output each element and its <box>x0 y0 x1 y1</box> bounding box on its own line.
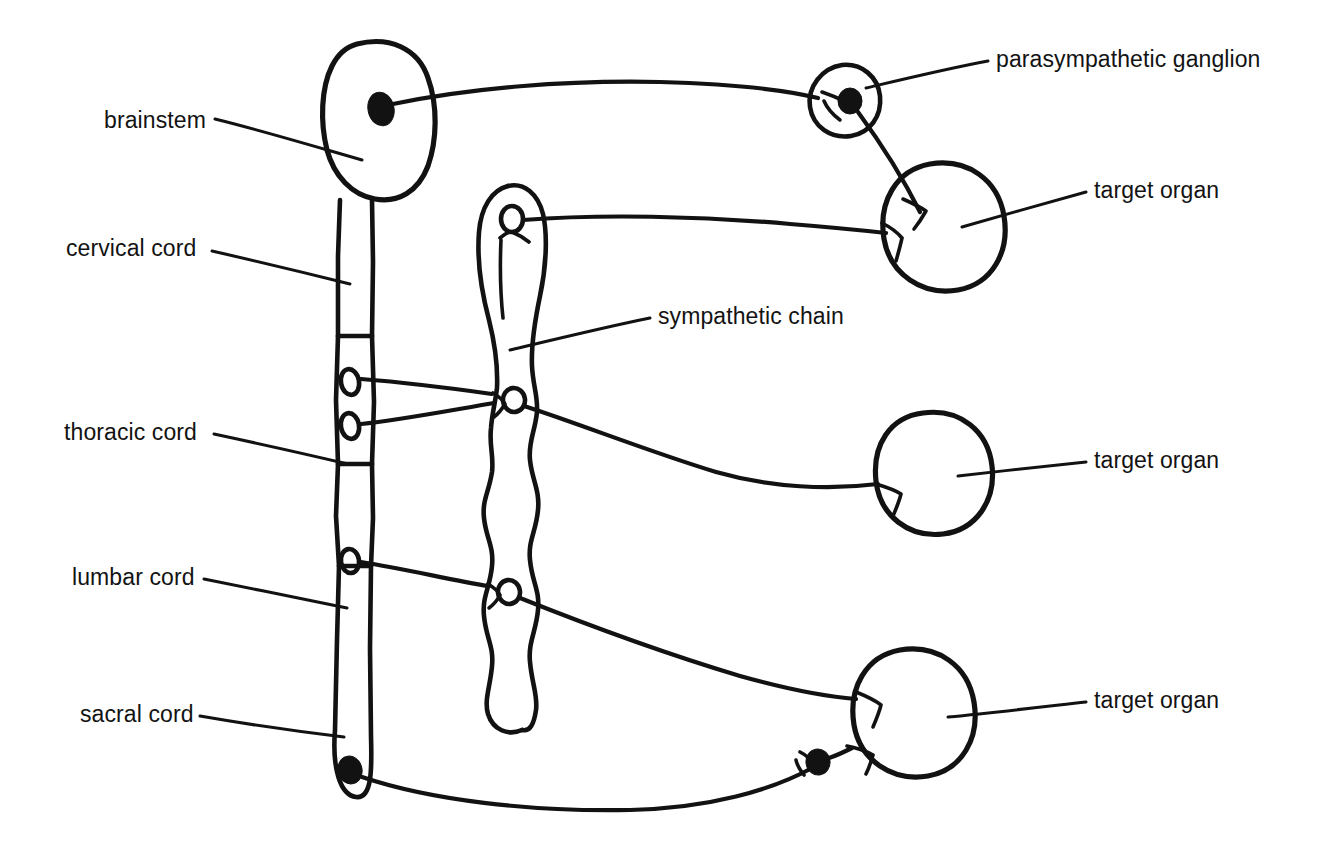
fiber-superior-cervical-ganglion-to-target-organ-top <box>523 217 886 233</box>
thoracic-root-lower <box>339 412 361 441</box>
lumbar-cord-right-wall <box>371 464 373 566</box>
fiber-chain-to-target-organ-middle <box>524 406 878 487</box>
fiber-terminal-ganglion-to-target-organ-bottom <box>829 748 852 758</box>
label-parasympathetic-ganglion: parasympathetic ganglion <box>996 46 1261 72</box>
leader-parasympathetic-ganglion <box>866 61 988 88</box>
cervical-cord-left-wall <box>338 200 340 336</box>
leader-sacral-cord <box>200 716 344 737</box>
label-thoracic-cord: thoracic cord <box>64 419 197 445</box>
ans-diagram-canvas: brainstem cervical cord thoracic cord lu… <box>0 0 1324 857</box>
lumbar-cord-left-wall <box>336 464 339 566</box>
label-target-organ-top: target organ <box>1094 177 1219 203</box>
thoracic-cord-left-wall <box>336 336 338 464</box>
label-target-organ-middle: target organ <box>1094 447 1219 473</box>
brainstem-nucleus <box>365 90 398 129</box>
label-cervical-cord: cervical cord <box>66 235 196 261</box>
sympathetic-chain-right-wall <box>508 185 546 730</box>
label-target-organ-bottom: target organ <box>1094 687 1219 713</box>
lumbar-root <box>339 548 360 574</box>
fiber-sacral-cord-to-terminal-ganglion <box>362 768 812 810</box>
leader-target-organ-bottom <box>948 702 1086 717</box>
leader-target-organ-middle <box>958 462 1086 476</box>
thoracic-cord-right-wall <box>372 336 374 464</box>
leader-cervical-cord <box>212 251 350 284</box>
leader-brainstem <box>215 119 362 160</box>
brainstem-group <box>323 42 436 200</box>
target-organ-bottom-terminal-upper <box>856 692 881 727</box>
leader-target-organ-top <box>962 192 1086 227</box>
superior-cervical-descending-fiber <box>500 240 503 318</box>
target-organ-top-group <box>882 163 1005 291</box>
fiber-lumbar-root-to-chain <box>361 562 488 586</box>
fiber-thoracic-root-lower-to-chain <box>361 403 494 424</box>
target-organ-top-outline <box>883 163 1005 291</box>
cervical-cord-right-wall <box>372 200 373 336</box>
ans-diagram: brainstem cervical cord thoracic cord lu… <box>0 0 1324 857</box>
superior-cervical-synapse <box>500 232 529 242</box>
leader-thoracic-cord <box>214 434 348 464</box>
label-lumbar-cord: lumbar cord <box>72 564 195 590</box>
fiber-brainstem-to-parasympathetic-ganglion <box>393 82 818 104</box>
leader-lumbar-cord <box>204 579 347 608</box>
thoracic-root-upper <box>339 368 361 397</box>
leader-sympathetic-chain <box>510 318 650 350</box>
label-brainstem: brainstem <box>104 107 206 133</box>
spinal-cord-group <box>334 200 374 797</box>
label-sacral-cord: sacral cord <box>80 701 194 727</box>
sympathetic-chain-group <box>478 185 545 732</box>
label-sympathetic-chain: sympathetic chain <box>658 303 844 329</box>
thoracic-chain-ganglion-ring <box>501 387 526 414</box>
fiber-chain-to-target-organ-bottom <box>520 598 856 699</box>
target-organ-bottom-group <box>847 649 975 777</box>
fiber-thoracic-root-upper-to-chain <box>361 379 492 394</box>
superior-cervical-ganglion-ring <box>501 206 523 232</box>
